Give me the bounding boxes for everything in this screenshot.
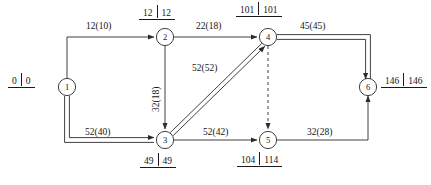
node-6 bbox=[359, 78, 376, 95]
time-label-node-2: 12 12 bbox=[139, 5, 175, 20]
edge-label-1-3: 52(40) bbox=[85, 128, 110, 138]
node-4 bbox=[259, 28, 276, 45]
edge-4-6 bbox=[277, 35, 370, 79]
late-time-node-5: 114 bbox=[260, 155, 280, 165]
edge-3-4 bbox=[170, 43, 264, 135]
edge-1-2 bbox=[67, 37, 154, 79]
time-label-node-6: 146 146 bbox=[381, 73, 427, 88]
late-time-node-6: 146 bbox=[404, 76, 424, 86]
edge-label-5-6: 32(28) bbox=[307, 128, 332, 138]
early-time-node-4: 101 bbox=[238, 5, 258, 15]
late-time-node-1: 0 bbox=[22, 76, 33, 86]
late-time-node-4: 101 bbox=[259, 5, 279, 15]
early-time-node-3: 49 bbox=[142, 156, 158, 166]
node-5 bbox=[259, 131, 276, 148]
early-time-node-2: 12 bbox=[141, 8, 157, 18]
early-time-node-5: 104 bbox=[239, 155, 259, 165]
edge-label-2-4: 22(18) bbox=[196, 22, 221, 32]
node-3 bbox=[156, 131, 173, 148]
time-label-node-3: 49 49 bbox=[140, 153, 176, 168]
late-time-node-3: 49 bbox=[159, 156, 175, 166]
early-time-node-1: 0 bbox=[10, 76, 21, 86]
edge-label-3-5: 52(42) bbox=[203, 128, 228, 138]
edge-label-1-2: 12(10) bbox=[86, 22, 111, 32]
edge-label-3-4: 52(52) bbox=[192, 64, 217, 74]
edge-label-4-6: 45(45) bbox=[300, 22, 325, 32]
time-label-node-1: 0 0 bbox=[8, 73, 35, 88]
early-time-node-6: 146 bbox=[383, 76, 403, 86]
node-2 bbox=[156, 28, 173, 45]
time-label-node-4: 101 101 bbox=[236, 2, 282, 17]
cpm-network-diagram: 1 2 3 4 5 6 12(10) 22(18) 32(18) 45(45) … bbox=[0, 0, 431, 185]
node-1 bbox=[58, 78, 75, 95]
late-time-node-2: 12 bbox=[158, 8, 174, 18]
time-label-node-5: 104 114 bbox=[237, 152, 282, 167]
edge-label-2-3: 32(18) bbox=[152, 87, 162, 112]
